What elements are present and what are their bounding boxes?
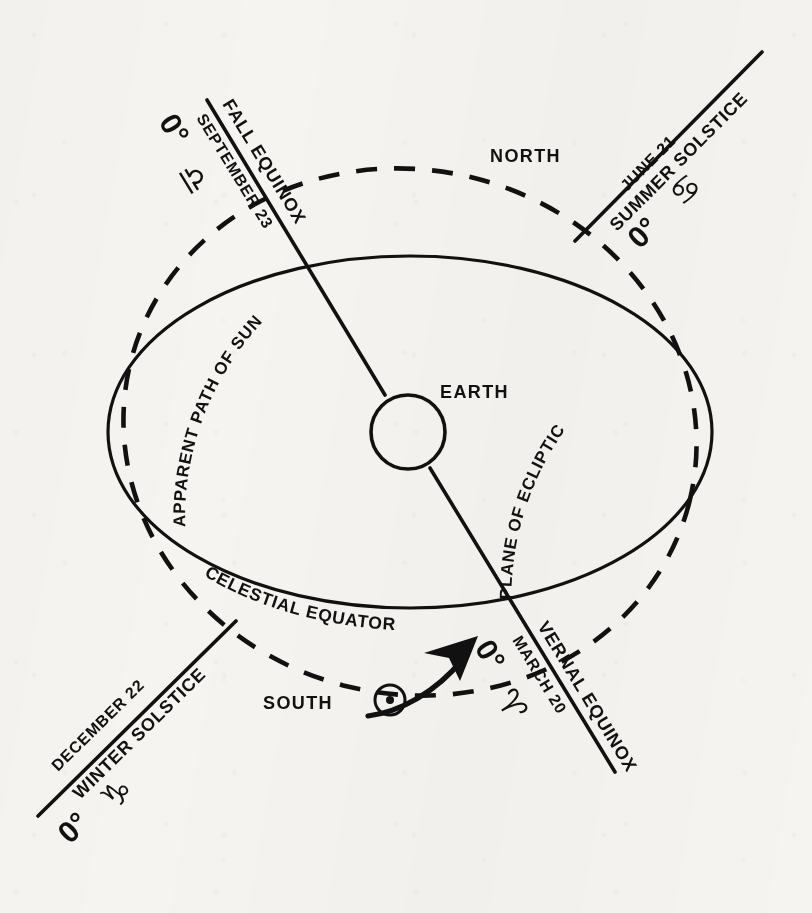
earth-circle xyxy=(371,395,445,469)
ecliptic-dashed-ellipse xyxy=(67,108,753,756)
cardinal-point-summer-solstice: SUMMER SOLSTICE JUNE 21 0° ♋ xyxy=(606,88,752,254)
north-label: NORTH xyxy=(490,146,561,166)
cardinal-point-fall-equinox: FALL EQUINOX SEPTEMBER 23 0° ♎ xyxy=(153,96,310,232)
summer-solstice-name: SUMMER SOLSTICE xyxy=(606,88,752,235)
winter-solstice-longitude: 0° xyxy=(51,806,95,850)
cardinal-point-vernal-equinox: VERNAL EQUINOX MARCH 20 0° ♈ xyxy=(469,618,641,776)
diagram-canvas: CELESTIAL EQUATOR APPARENT PATH OF SUN P… xyxy=(0,0,812,913)
eastward-motion-arrow xyxy=(368,636,478,716)
celestial-sphere-diagram: CELESTIAL EQUATOR APPARENT PATH OF SUN P… xyxy=(0,0,812,913)
south-label: SOUTH xyxy=(263,693,333,713)
libra-icon: ♎ xyxy=(169,156,218,202)
earth-label: EARTH xyxy=(440,382,509,402)
fall-equinox-longitude: 0° xyxy=(153,108,196,150)
winter-solstice-line xyxy=(38,621,236,816)
celestial-equator-label: CELESTIAL EQUATOR xyxy=(202,562,397,635)
apparent-path-of-sun-label: APPARENT PATH OF SUN xyxy=(170,311,266,527)
plane-of-ecliptic-label: PLANE OF ECLIPTIC xyxy=(496,420,569,599)
cardinal-point-winter-solstice: WINTER SOLSTICE DECEMBER 22 0° ♑ xyxy=(48,664,210,849)
